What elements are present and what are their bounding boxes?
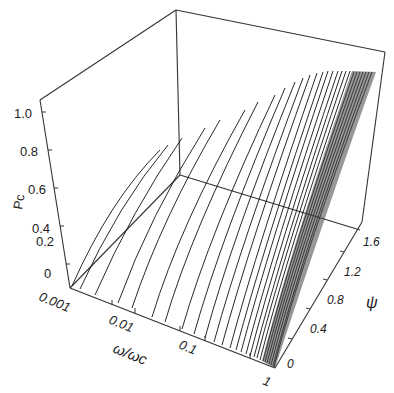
svg-text:0: 0	[287, 357, 294, 371]
svg-text:0.2: 0.2	[36, 234, 54, 249]
z-tick-labels: 1.0 0.8 0.6 0.4 0.2 0	[14, 106, 54, 281]
y-axis-label: ψ	[366, 294, 378, 311]
z-axis-label: Pc	[10, 192, 27, 210]
svg-text:0.6: 0.6	[28, 182, 46, 197]
x-axis-label: ω/ωc	[111, 339, 150, 368]
svg-text:0.8: 0.8	[20, 144, 38, 159]
svg-text:0.001: 0.001	[37, 289, 73, 315]
x-tick-labels: 0.001 0.01 0.1 1	[37, 289, 273, 390]
svg-text:1.6: 1.6	[363, 235, 380, 249]
svg-text:1: 1	[261, 373, 273, 390]
svg-text:1.0: 1.0	[14, 106, 32, 121]
svg-text:0.1: 0.1	[177, 337, 199, 358]
svg-text:0.8: 0.8	[327, 293, 344, 307]
svg-text:0: 0	[44, 266, 51, 281]
svg-text:0.4: 0.4	[310, 322, 327, 336]
surface-plot: 1.0 0.8 0.6 0.4 0.2 0 0.001 0.01 0.1 1 0…	[0, 0, 394, 393]
svg-text:1.2: 1.2	[344, 265, 361, 279]
svg-text:0.01: 0.01	[107, 312, 136, 335]
